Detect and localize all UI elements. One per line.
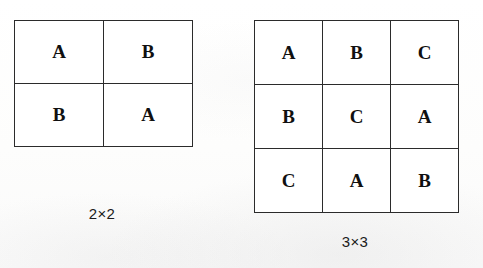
grid-cell-r2c2: A <box>104 84 193 147</box>
grid-cell-r1c3: C <box>391 21 459 85</box>
latin-square-2x2-grid: A B B A <box>14 20 193 147</box>
grid-cell-r3c2: A <box>323 149 391 213</box>
table-row: B C A <box>255 85 459 149</box>
latin-square-3x3-grid: A B C B C A C A B <box>254 20 459 213</box>
table-row: A B C <box>255 21 459 85</box>
grid-cell-r3c3: B <box>391 149 459 213</box>
grid-cell-r1c2: B <box>104 21 193 84</box>
table-row: C A B <box>255 149 459 213</box>
caption-2x2: 2×2 <box>14 205 190 222</box>
latin-square-2x2-figure: A B B A <box>14 20 193 147</box>
grid-cell-r2c1: B <box>255 85 323 149</box>
grid-cell-r1c2: B <box>323 21 391 85</box>
latin-square-3x3-figure: A B C B C A C A B <box>254 20 459 213</box>
caption-3x3: 3×3 <box>254 233 456 250</box>
grid-cell-r1c1: A <box>15 21 104 84</box>
table-row: B A <box>15 84 193 147</box>
grid-cell-r3c1: C <box>255 149 323 213</box>
grid-cell-r2c1: B <box>15 84 104 147</box>
grid-cell-r2c2: C <box>323 85 391 149</box>
grid-cell-r1c1: A <box>255 21 323 85</box>
grid-cell-r2c3: A <box>391 85 459 149</box>
table-row: A B <box>15 21 193 84</box>
